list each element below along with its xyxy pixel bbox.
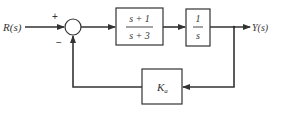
block-diagram: R(s) + − s + 1 s + 3 1 s Y(s) Ka: [0, 0, 290, 114]
gain-subscript: a: [164, 87, 168, 95]
summing-junction: [65, 19, 81, 35]
integrator-numerator: 1: [196, 13, 201, 24]
minus-sign: −: [56, 37, 62, 48]
output-label: Y(s): [252, 22, 269, 34]
controller-numerator: s + 1: [129, 13, 150, 24]
controller-denominator: s + 3: [129, 30, 150, 41]
integrator-denominator: s: [196, 30, 200, 41]
input-label: R(s): [2, 21, 22, 34]
plus-sign: +: [52, 11, 58, 22]
